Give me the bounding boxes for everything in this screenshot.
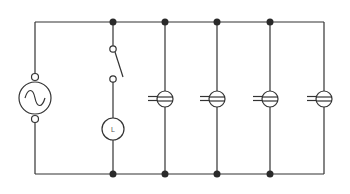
socket-branch-4 bbox=[307, 22, 332, 174]
socket-branch-1 bbox=[148, 22, 173, 174]
lamp-label: L bbox=[111, 126, 115, 133]
socket-branch-3 bbox=[253, 22, 278, 174]
junction-node-icon bbox=[267, 19, 274, 26]
ac-source-branch bbox=[19, 22, 51, 174]
terminal-icon bbox=[32, 74, 39, 81]
junction-node-icon bbox=[162, 19, 169, 26]
switch-lamp-branch: L bbox=[102, 22, 124, 174]
junction-node-icon bbox=[214, 171, 221, 178]
socket-icon bbox=[209, 91, 225, 107]
socket-icon bbox=[316, 91, 332, 107]
socket-branch-2 bbox=[200, 22, 225, 174]
junction-node-icon bbox=[214, 19, 221, 26]
junction-node-icon bbox=[110, 171, 117, 178]
switch-terminal-icon bbox=[110, 76, 116, 82]
junction-node-icon bbox=[162, 171, 169, 178]
switch-terminal-icon bbox=[110, 46, 116, 52]
circuit-diagram: L bbox=[0, 0, 350, 194]
switch-blade-icon bbox=[115, 52, 123, 77]
terminal-icon bbox=[32, 116, 39, 123]
socket-icon bbox=[262, 91, 278, 107]
socket-icon bbox=[157, 91, 173, 107]
junction-node-icon bbox=[267, 171, 274, 178]
junction-node-icon bbox=[110, 19, 117, 26]
junction-nodes bbox=[110, 19, 274, 178]
